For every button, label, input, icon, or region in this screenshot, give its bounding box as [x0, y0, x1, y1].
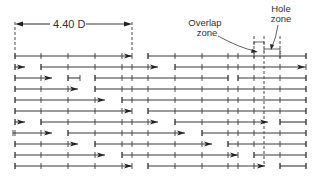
overlap-leader-line — [218, 36, 255, 51]
sweep-rows — [13, 53, 306, 169]
overlap-leader-arrow-icon — [251, 49, 258, 53]
dimension-annotation: 4.40 D — [15, 18, 132, 52]
sweep-row — [15, 163, 306, 169]
sweep-row — [15, 53, 306, 59]
sweep-row — [15, 152, 306, 158]
dimension-arrow-right-icon — [124, 22, 132, 27]
hole-zone-annotation: Hole zone — [264, 3, 291, 52]
overlap-zone-annotation: Overlap zone — [188, 17, 264, 53]
dimension-label: 4.40 D — [53, 18, 85, 30]
overlap-label-line2: zone — [197, 27, 218, 38]
hole-label-line2: zone — [271, 13, 292, 24]
sweep-row — [15, 97, 306, 103]
sweep-row — [15, 75, 306, 81]
overlap-hole-zone-diagram: 4.40 D Overlap zone Hole zone — [0, 0, 319, 177]
sweep-row — [15, 108, 306, 114]
sweep-row — [15, 141, 306, 147]
hole-bracket — [264, 49, 280, 52]
dimension-arrow-left-icon — [15, 22, 23, 27]
hole-leader-line — [272, 25, 278, 47]
sweep-row — [15, 119, 306, 125]
sweep-row — [13, 130, 306, 136]
sweep-row — [15, 64, 306, 70]
overlap-bracket — [254, 42, 264, 45]
sweep-row — [15, 86, 306, 92]
